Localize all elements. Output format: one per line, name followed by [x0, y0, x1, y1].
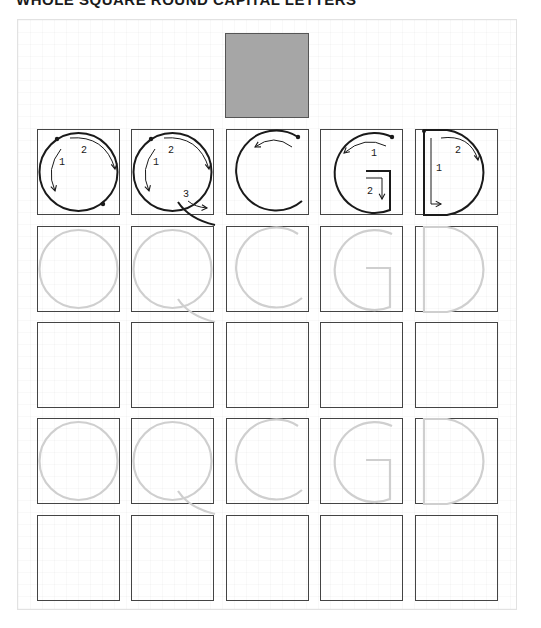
worksheet-title: WHOLE SQUARE ROUND CAPITAL LETTERS [16, 0, 357, 8]
svg-text:2: 2 [168, 145, 174, 156]
trace-box-d[interactable] [415, 418, 498, 504]
letter-c-trace-icon [226, 226, 321, 326]
practice-box-o[interactable] [37, 515, 120, 601]
model-box-d: 12 [415, 129, 498, 215]
trace-box-q[interactable] [131, 226, 214, 312]
svg-text:1: 1 [436, 163, 442, 174]
svg-text:1: 1 [371, 148, 377, 159]
model-box-q: 123 [131, 129, 214, 215]
model-box-o: 12 [37, 129, 120, 215]
practice-box-q[interactable] [131, 322, 214, 408]
letter-c-stroke-guide-icon [226, 129, 321, 229]
practice-box-c[interactable] [226, 322, 309, 408]
letter-o-trace-icon [37, 226, 132, 326]
letter-q-trace-icon [131, 418, 226, 518]
letter-o-trace-icon [37, 418, 132, 518]
practice-box-d[interactable] [415, 322, 498, 408]
trace-box-c[interactable] [226, 418, 309, 504]
letter-d-trace-icon [415, 226, 510, 326]
trace-box-o[interactable] [37, 418, 120, 504]
practice-box-d[interactable] [415, 515, 498, 601]
svg-text:1: 1 [153, 157, 159, 168]
svg-text:3: 3 [183, 189, 189, 200]
practice-box-o[interactable] [37, 322, 120, 408]
trace-box-g[interactable] [320, 226, 403, 312]
practice-box-g[interactable] [320, 515, 403, 601]
letter-d-stroke-guide-icon: 12 [415, 129, 510, 229]
letter-q-trace-icon [131, 226, 226, 326]
trace-box-d[interactable] [415, 226, 498, 312]
letter-o-stroke-guide-icon: 12 [37, 129, 132, 229]
trace-box-c[interactable] [226, 226, 309, 312]
model-box-g: 12 [320, 129, 403, 215]
letter-g-trace-icon [320, 226, 415, 326]
letter-d-trace-icon [415, 418, 510, 518]
svg-text:1: 1 [59, 157, 65, 168]
trace-box-g[interactable] [320, 418, 403, 504]
trace-box-q[interactable] [131, 418, 214, 504]
letter-c-trace-icon [226, 418, 321, 518]
practice-box-g[interactable] [320, 322, 403, 408]
letter-q-stroke-guide-icon: 123 [131, 129, 226, 229]
color-swatch [225, 33, 309, 118]
practice-box-c[interactable] [226, 515, 309, 601]
svg-text:2: 2 [455, 145, 461, 156]
model-box-c [226, 129, 309, 215]
letter-g-stroke-guide-icon: 12 [320, 129, 415, 229]
svg-text:2: 2 [367, 186, 373, 197]
practice-box-q[interactable] [131, 515, 214, 601]
svg-text:2: 2 [81, 145, 87, 156]
trace-box-o[interactable] [37, 226, 120, 312]
letter-g-trace-icon [320, 418, 415, 518]
